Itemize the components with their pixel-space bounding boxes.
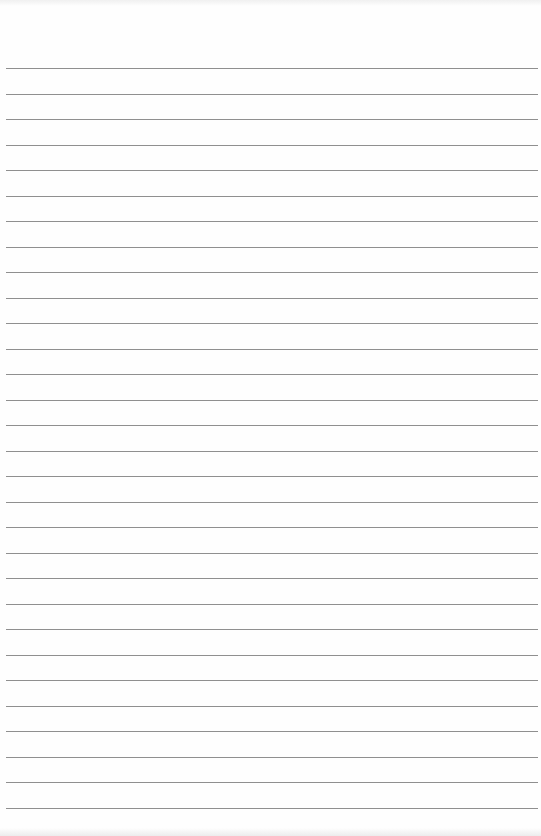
ruled-line [6, 119, 538, 120]
lined-paper-sheet [0, 0, 541, 836]
ruled-line [6, 298, 538, 299]
ruled-line [6, 502, 538, 503]
ruled-line [6, 272, 538, 273]
ruled-line [6, 170, 538, 171]
ruled-line [6, 374, 538, 375]
ruled-line [6, 655, 538, 656]
ruled-line [6, 808, 538, 809]
ruled-line [6, 553, 538, 554]
ruled-line [6, 145, 538, 146]
ruled-line [6, 706, 538, 707]
ruled-line [6, 680, 538, 681]
ruled-line [6, 782, 538, 783]
ruled-line [6, 425, 538, 426]
ruled-line [6, 629, 538, 630]
ruled-line [6, 757, 538, 758]
ruled-line [6, 247, 538, 248]
ruled-line [6, 221, 538, 222]
ruled-line [6, 578, 538, 579]
ruled-line [6, 94, 538, 95]
paper-bottom-edge [0, 828, 541, 836]
ruled-line [6, 400, 538, 401]
ruled-line [6, 476, 538, 477]
ruled-line [6, 451, 538, 452]
paper-top-edge [0, 0, 541, 6]
ruled-line [6, 68, 538, 69]
ruled-line [6, 323, 538, 324]
ruled-line [6, 196, 538, 197]
ruled-line [6, 527, 538, 528]
ruled-line [6, 604, 538, 605]
ruled-line [6, 731, 538, 732]
ruled-line [6, 349, 538, 350]
